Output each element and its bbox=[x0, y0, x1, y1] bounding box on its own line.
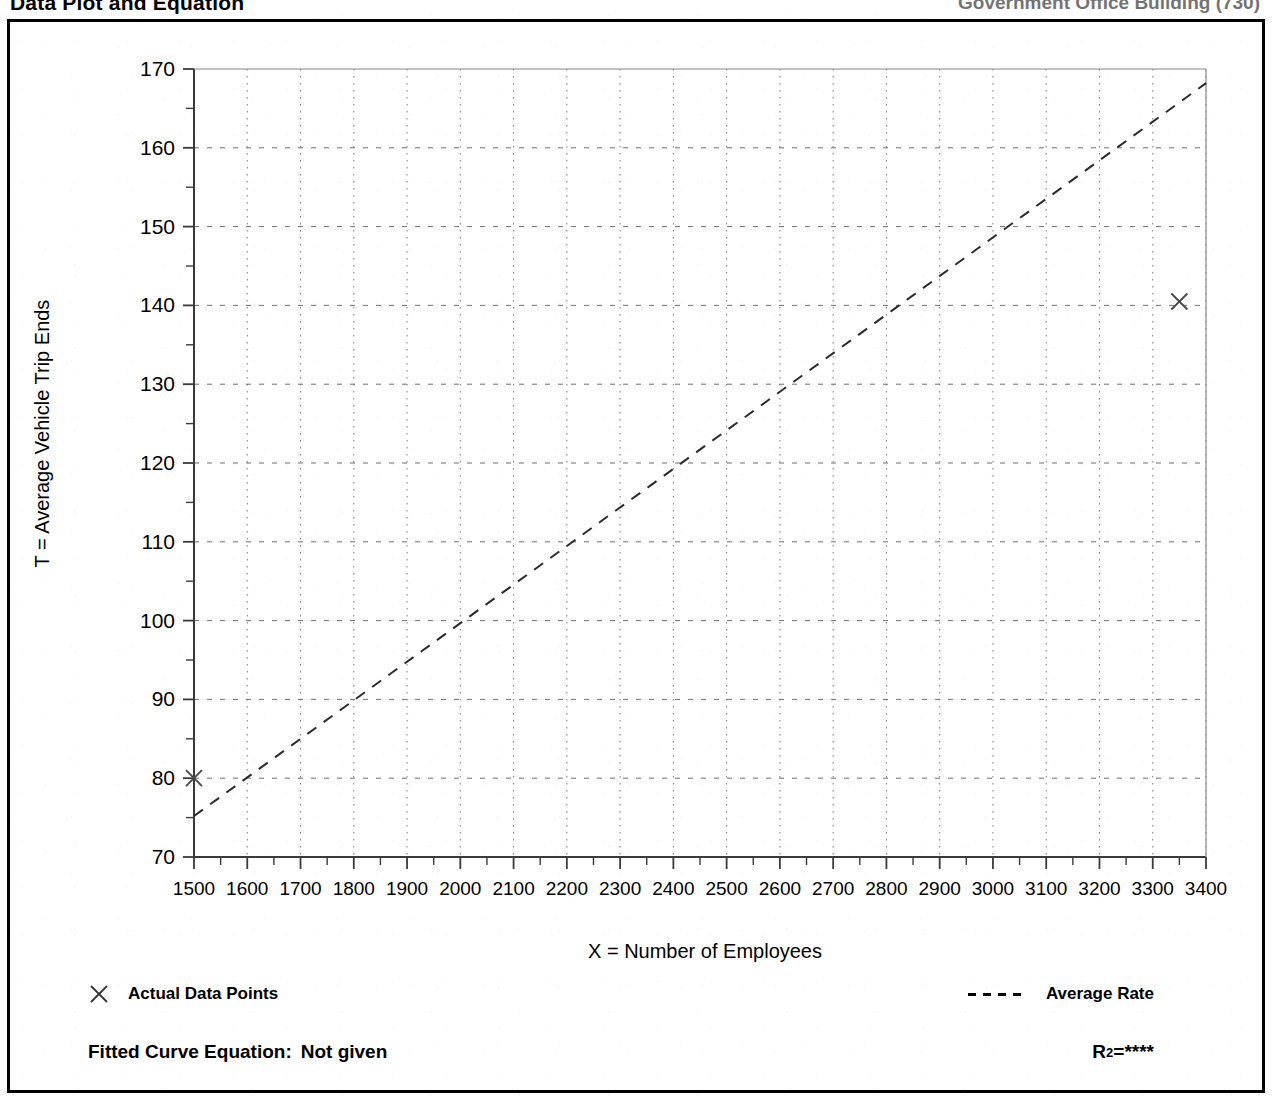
figure-frame: T = Average Vehicle Trip Ends X = Number… bbox=[7, 19, 1265, 1093]
svg-text:2100: 2100 bbox=[492, 878, 534, 899]
legend-item-average-rate: Average Rate bbox=[968, 979, 1154, 1009]
svg-text:2200: 2200 bbox=[546, 878, 588, 899]
svg-text:2400: 2400 bbox=[652, 878, 694, 899]
equation-value: Not given bbox=[301, 1041, 388, 1063]
svg-text:80: 80 bbox=[152, 766, 175, 789]
svg-text:2800: 2800 bbox=[865, 878, 907, 899]
plot-area: 7080901001101201301401501601701500160017… bbox=[10, 22, 1262, 937]
legend-item-data-points: Actual Data Points bbox=[88, 979, 278, 1009]
svg-text:70: 70 bbox=[152, 845, 175, 868]
r-squared-equals: = bbox=[1113, 1041, 1124, 1063]
land-use-title: Government Office Building (730) bbox=[958, 0, 1260, 14]
svg-text:140: 140 bbox=[140, 293, 175, 316]
svg-text:1800: 1800 bbox=[333, 878, 375, 899]
svg-text:2600: 2600 bbox=[759, 878, 801, 899]
page-title: Data Plot and Equation bbox=[10, 0, 244, 15]
svg-text:2700: 2700 bbox=[812, 878, 854, 899]
equation-label: Fitted Curve Equation: bbox=[88, 1041, 292, 1063]
r-squared-label: R bbox=[1092, 1041, 1106, 1063]
svg-text:100: 100 bbox=[140, 609, 175, 632]
svg-text:2000: 2000 bbox=[439, 878, 481, 899]
r-squared-exponent: 2 bbox=[1106, 1045, 1113, 1060]
svg-text:160: 160 bbox=[140, 136, 175, 159]
svg-text:3100: 3100 bbox=[1025, 878, 1067, 899]
r-squared-block: R2 = **** bbox=[1092, 1037, 1154, 1067]
legend-row-primary: Actual Data Points Average Rate bbox=[10, 979, 1262, 1009]
svg-text:90: 90 bbox=[152, 687, 175, 710]
legend-label-data-points: Actual Data Points bbox=[128, 984, 278, 1004]
svg-text:3300: 3300 bbox=[1132, 878, 1174, 899]
svg-text:2500: 2500 bbox=[705, 878, 747, 899]
axis-ticks bbox=[183, 69, 1206, 869]
actual-data-points bbox=[186, 293, 1187, 786]
svg-text:1500: 1500 bbox=[173, 878, 215, 899]
svg-text:3400: 3400 bbox=[1185, 878, 1227, 899]
gridlines bbox=[194, 69, 1206, 857]
axis-tick-labels: 7080901001101201301401501601701500160017… bbox=[140, 57, 1227, 899]
dashed-line-icon bbox=[968, 993, 1026, 996]
fitted-curve-equation: Fitted Curve Equation: Not given bbox=[88, 1037, 387, 1067]
svg-text:2900: 2900 bbox=[919, 878, 961, 899]
svg-text:110: 110 bbox=[142, 530, 175, 553]
svg-text:1900: 1900 bbox=[386, 878, 428, 899]
legend-label-average-rate: Average Rate bbox=[1046, 984, 1154, 1004]
r-squared-value: **** bbox=[1124, 1041, 1154, 1063]
svg-text:170: 170 bbox=[140, 57, 175, 80]
legend-row-equation: Fitted Curve Equation: Not given R2 = **… bbox=[10, 1037, 1262, 1067]
svg-text:1700: 1700 bbox=[279, 878, 321, 899]
average-rate-line bbox=[194, 83, 1206, 816]
x-axis-title: X = Number of Employees bbox=[190, 940, 1220, 963]
svg-text:150: 150 bbox=[140, 215, 175, 238]
svg-text:2300: 2300 bbox=[599, 878, 641, 899]
svg-text:120: 120 bbox=[140, 451, 175, 474]
data-point-marker bbox=[1171, 293, 1187, 309]
svg-text:1600: 1600 bbox=[226, 878, 268, 899]
svg-text:3200: 3200 bbox=[1078, 878, 1120, 899]
page-header: Data Plot and Equation Government Office… bbox=[0, 0, 1274, 17]
svg-text:3000: 3000 bbox=[972, 878, 1014, 899]
x-marker-icon bbox=[88, 983, 110, 1005]
svg-text:130: 130 bbox=[140, 372, 175, 395]
chart-figure: T = Average Vehicle Trip Ends X = Number… bbox=[10, 22, 1262, 1090]
